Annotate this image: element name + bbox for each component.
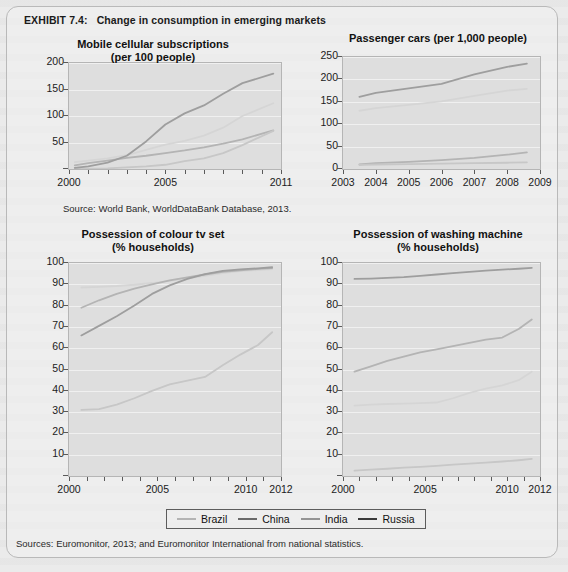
x-tick-mark (491, 477, 492, 481)
x-tick-mark (228, 477, 229, 481)
y-tick-mark (337, 347, 342, 348)
x-tick-mark (193, 477, 194, 481)
y-tick-mark (337, 390, 342, 391)
y-tick-mark (63, 283, 68, 284)
y-tick-label: 150 (308, 94, 338, 106)
y-tick-label: 90 (22, 276, 64, 288)
y-tick-label: 30 (308, 404, 338, 416)
y-tick-label: 80 (308, 298, 338, 310)
x-tick-mark (474, 477, 475, 481)
y-tick-label: 10 (22, 447, 64, 459)
x-tick-mark (204, 170, 205, 174)
y-tick-label: 10 (308, 447, 338, 459)
x-tick-label: 2005 (140, 176, 190, 188)
x-tick-label: 2012 (515, 483, 565, 495)
x-tick-mark (108, 170, 109, 174)
y-tick-mark (63, 347, 68, 348)
y-tick-label: 70 (22, 319, 64, 331)
y-tick-label: 50 (22, 135, 64, 147)
y-tick-label: 80 (22, 298, 64, 310)
y-tick-mark (63, 89, 68, 90)
x-tick-mark (409, 170, 410, 174)
y-tick-mark (337, 262, 342, 263)
x-tick-label: 2005 (132, 483, 182, 495)
x-tick-mark (165, 170, 166, 174)
y-tick-mark (63, 142, 68, 143)
y-tick-label: 50 (308, 139, 338, 151)
x-tick-mark (376, 477, 377, 481)
y-tick-label: 40 (308, 383, 338, 395)
legend-item-china: China (238, 513, 289, 525)
exhibit-heading: Change in consumption in emerging market… (97, 14, 326, 26)
x-tick-mark (540, 477, 541, 481)
y-tick-label: 200 (308, 71, 338, 83)
chart-title-text: Possession of washing machine(% househol… (318, 228, 558, 253)
y-tick-label: 50 (22, 362, 64, 374)
chart-title-possession-colour-tv-set: Possession of colour tv set(% households… (22, 228, 284, 256)
x-tick-mark (104, 477, 105, 481)
x-tick-mark (376, 170, 377, 174)
y-tick-mark (337, 78, 342, 79)
source-note-top: Source: World Bank, WorldDataBank Databa… (63, 203, 291, 214)
y-tick-mark (63, 115, 68, 116)
source-note-bottom: Sources: Euromonitor, 2013; and Euromoni… (16, 538, 363, 549)
x-tick-mark (343, 477, 344, 481)
y-tick-mark (337, 283, 342, 284)
y-tick-mark (337, 123, 342, 124)
chart-title-text: Possession of colour tv set(% households… (22, 228, 284, 253)
legend-swatch-icon (177, 518, 196, 520)
y-tick-label: 250 (308, 49, 338, 61)
y-tick-mark (337, 454, 342, 455)
y-tick-label: 60 (308, 340, 338, 352)
chart-title-text: Passenger cars (per 1,000 people) (318, 32, 558, 45)
x-tick-mark (69, 477, 70, 481)
x-tick-mark (157, 477, 158, 481)
y-tick-mark (337, 369, 342, 370)
x-tick-mark (409, 477, 410, 481)
legend-label: India (325, 513, 348, 525)
y-tick-mark (63, 475, 68, 476)
legend-swatch-icon (358, 518, 377, 520)
x-tick-mark (281, 477, 282, 481)
y-tick-mark (63, 262, 68, 263)
legend-item-india: India (301, 513, 348, 525)
chart-title-passenger-cars: Passenger cars (per 1,000 people) (318, 32, 558, 48)
x-tick-mark (242, 170, 243, 174)
legend-label: Russia (382, 513, 414, 525)
x-tick-mark (122, 477, 123, 481)
x-tick-mark (246, 477, 247, 481)
chart-subtitle-text: (% households) (318, 241, 558, 254)
y-tick-mark (63, 168, 68, 169)
x-tick-mark (425, 477, 426, 481)
x-tick-mark (146, 170, 147, 174)
x-tick-mark (442, 170, 443, 174)
x-tick-mark (175, 477, 176, 481)
y-tick-label: 60 (22, 340, 64, 352)
y-tick-mark (63, 454, 68, 455)
y-tick-label: 20 (308, 425, 338, 437)
x-tick-mark (343, 170, 344, 174)
y-tick-mark (63, 369, 68, 370)
x-tick-mark (359, 477, 360, 481)
x-tick-mark (210, 477, 211, 481)
y-tick-mark (337, 326, 342, 327)
x-tick-mark (140, 477, 141, 481)
x-tick-mark (88, 170, 89, 174)
x-tick-mark (87, 477, 88, 481)
exhibit-number: EXHIBIT 7.4: (24, 14, 88, 26)
y-tick-label: 50 (308, 362, 338, 374)
y-tick-label: 40 (22, 383, 64, 395)
y-tick-label: 90 (308, 276, 338, 288)
legend-item-brazil: Brazil (177, 513, 227, 525)
y-tick-mark (63, 390, 68, 391)
x-tick-mark (507, 170, 508, 174)
x-tick-mark (540, 170, 541, 174)
legend-label: China (262, 513, 289, 525)
y-tick-label: 70 (308, 319, 338, 331)
x-tick-label: 2000 (44, 483, 94, 495)
legend-label: Brazil (201, 513, 227, 525)
chart-legend: BrazilChinaIndiaRussia (166, 509, 426, 529)
y-tick-mark (63, 62, 68, 63)
y-tick-mark (63, 326, 68, 327)
y-tick-mark (337, 305, 342, 306)
